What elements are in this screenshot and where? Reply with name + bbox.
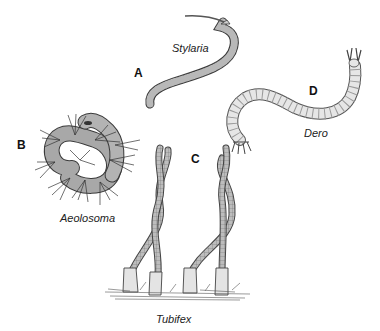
aeolosoma-worm	[35, 114, 140, 205]
dero-worm	[232, 48, 361, 154]
panel-label-d: D	[309, 84, 318, 98]
species-label-aeolosoma: Aeolosoma	[60, 212, 115, 224]
panel-label-c: C	[191, 152, 200, 166]
worm-figure: A Stylaria B Aeolosoma C Tubifex D Dero	[0, 0, 380, 331]
species-label-stylaria: Stylaria	[172, 42, 209, 54]
panel-label-b: B	[17, 138, 26, 152]
species-label-dero: Dero	[304, 127, 328, 139]
species-label-tubifex: Tubifex	[156, 313, 191, 325]
stylaria-worm	[150, 16, 235, 104]
panel-label-a: A	[134, 66, 143, 80]
tubifex-worms	[105, 148, 250, 300]
